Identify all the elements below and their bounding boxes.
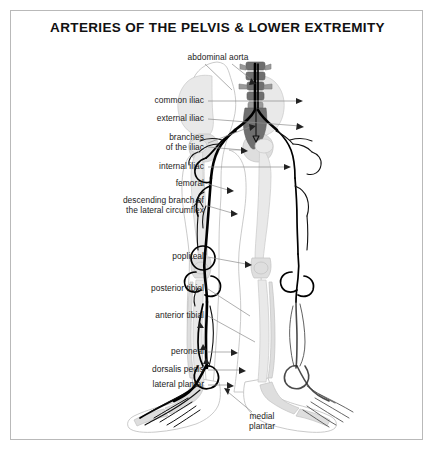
anatomy-figure — [0, 0, 435, 452]
artery-femoral-right — [295, 178, 298, 254]
label-posterior-tibial: posterior tibial — [104, 284, 204, 294]
ilium-left — [178, 75, 214, 136]
label-anterior-tibial: anterior tibial — [104, 311, 204, 321]
label-abdominal-aorta: abdominal aorta — [188, 53, 249, 63]
label-internal-iliac: internal iliac — [104, 162, 204, 172]
label-medial-plantar: medial plantar — [249, 412, 275, 431]
illustration-plate: ARTERIES OF THE PELVIS & LOWER EXTREMITY — [0, 0, 435, 452]
label-dorsalis-pedis: dorsalis pedis — [104, 365, 204, 375]
artery-posterior-tibial-left — [206, 302, 207, 368]
label-lateral-plantar: lateral plantar — [104, 380, 204, 390]
label-peroneal: peroneal — [104, 347, 204, 357]
label-descending-branch-of-the-lateral-circumflex: descending branch of the lateral circumf… — [64, 196, 204, 215]
label-femoral: femoral — [104, 179, 204, 189]
femoral-head-right — [255, 139, 273, 153]
tibia-right — [258, 280, 269, 382]
label-popliteal: popliteal — [104, 252, 204, 262]
label-common-iliac: common iliac — [104, 96, 204, 106]
label-branches-of-the-iliac: branches of the iliac — [104, 133, 204, 152]
label-external-iliac: external iliac — [104, 114, 204, 124]
